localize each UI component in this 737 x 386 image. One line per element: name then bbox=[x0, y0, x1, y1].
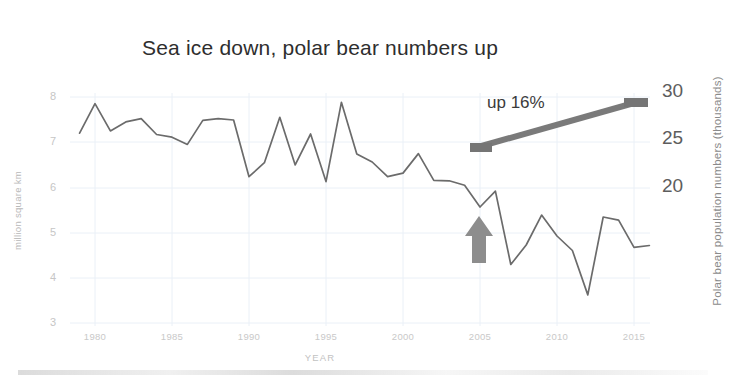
y-left-tick-3: 3 bbox=[30, 316, 56, 328]
y-right-tick-20: 20 bbox=[662, 175, 698, 197]
y-axis-left-title: million square km bbox=[12, 136, 23, 286]
x-tick-1990: 1990 bbox=[224, 331, 274, 342]
y-left-tick-6: 6 bbox=[30, 181, 56, 193]
y-axis-right-title: Polar bear population numbers (thousands… bbox=[711, 41, 723, 341]
y-left-tick-7: 7 bbox=[30, 135, 56, 147]
x-tick-2005: 2005 bbox=[455, 331, 505, 342]
chart-canvas: Sea ice down, polar bear numbers up bbox=[0, 0, 737, 386]
x-tick-2015: 2015 bbox=[609, 331, 659, 342]
grid-horizontal bbox=[70, 97, 650, 323]
sea-ice-line bbox=[80, 102, 650, 295]
x-tick-2010: 2010 bbox=[532, 331, 582, 342]
trend-annotation-label: up 16% bbox=[487, 93, 545, 113]
x-tick-2000: 2000 bbox=[378, 331, 428, 342]
up-arrow-marker bbox=[465, 216, 493, 263]
x-axis-title: YEAR bbox=[0, 352, 640, 363]
trend-marker-end bbox=[624, 98, 648, 107]
x-tick-1980: 1980 bbox=[70, 331, 120, 342]
plot-svg bbox=[0, 0, 737, 386]
x-tick-1995: 1995 bbox=[301, 331, 351, 342]
y-right-tick-30: 30 bbox=[662, 80, 698, 102]
x-tick-1985: 1985 bbox=[147, 331, 197, 342]
y-left-tick-5: 5 bbox=[30, 226, 56, 238]
y-left-tick-4: 4 bbox=[30, 271, 56, 283]
scan-artifact-smudge bbox=[18, 370, 708, 375]
trend-marker-start bbox=[470, 143, 492, 152]
y-right-tick-25: 25 bbox=[662, 127, 698, 149]
y-left-tick-8: 8 bbox=[30, 90, 56, 102]
